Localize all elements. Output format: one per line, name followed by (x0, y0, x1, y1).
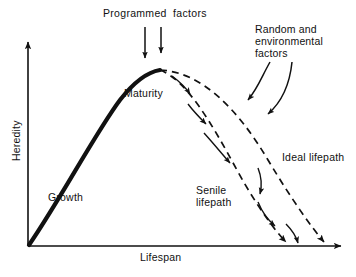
decline-arrow-3 (204, 133, 230, 163)
label-senile-lifepath: Senile lifepath (196, 185, 231, 208)
label-programmed-factors: Programmed factors (103, 8, 207, 20)
decline-arrow-6 (286, 224, 298, 243)
x-axis-label: Lifespan (140, 252, 181, 264)
random-factors-arrow-left (248, 62, 270, 100)
senile-lifepath-curve (160, 70, 286, 242)
y-axis-label: Heredity (11, 111, 23, 171)
random-factors-arrows (248, 62, 292, 114)
label-random-environmental-factors: Random and environmental factors (255, 23, 323, 59)
label-growth: Growth (48, 192, 83, 204)
random-factors-arrow-right (268, 62, 292, 114)
decline-arrow-4 (258, 168, 261, 194)
decline-arrow-5 (258, 202, 275, 226)
axis-lines (28, 42, 341, 246)
label-ideal-lifepath: Ideal lifepath (282, 152, 344, 164)
lifespan-heredity-diagram: Programmed factors Random and environmen… (0, 0, 356, 277)
programmed-factors-arrows (145, 27, 161, 58)
label-maturity: Maturity (124, 88, 163, 100)
